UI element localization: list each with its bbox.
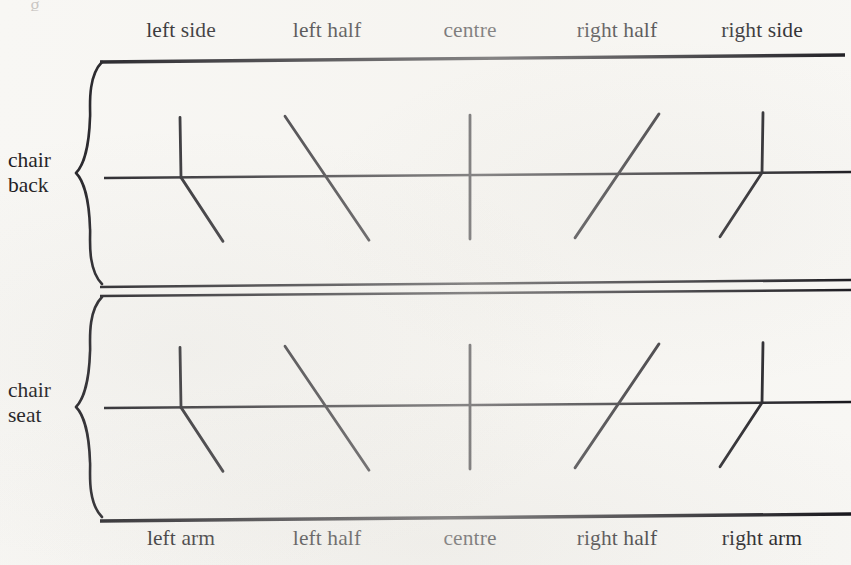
bottom-label-3: right half (577, 528, 657, 550)
mark-backslash-stroke (285, 116, 369, 240)
tick-mark-diagonal-forwardslash (575, 114, 659, 238)
chair-back-axis (104, 172, 851, 178)
row-label-chair-back: chairback (8, 148, 51, 198)
mark-backslash-stroke (285, 346, 369, 470)
braces-group (76, 62, 102, 517)
chair-region-coding-figure: g left sideleft halfcentreright halfrigh… (0, 0, 851, 565)
mark-lower-diagonal-stroke (720, 173, 762, 237)
mark-upper-vertical-stroke (762, 343, 763, 403)
mark-forwardslash-stroke (575, 344, 659, 468)
horizontal-rules-group (100, 55, 851, 521)
mark-upper-vertical-stroke (180, 117, 181, 177)
tick-mark-vertical-up-diagonal-down-right (180, 117, 223, 241)
mark-forwardslash-stroke (575, 114, 659, 238)
tick-mark-vertical-up-diagonal-down-left (720, 343, 763, 467)
tick-mark-diagonal-backslash (285, 346, 369, 470)
row-label-line-2: seat (8, 403, 51, 428)
divider-rule-lower (100, 290, 851, 296)
top-label-1: left half (293, 20, 361, 42)
tick-mark-vertical-up-diagonal-down-left (720, 113, 763, 237)
chair-seat-brace (76, 297, 102, 517)
chair-seat-axis (104, 402, 851, 408)
mark-lower-diagonal-stroke (720, 403, 762, 467)
tick-mark-diagonal-forwardslash (575, 344, 659, 468)
row-label-line-1: chair (8, 148, 51, 173)
mark-lower-diagonal-stroke (181, 177, 223, 241)
row-label-line-2: back (8, 173, 51, 198)
mark-lower-diagonal-stroke (181, 407, 223, 471)
row-label-line-1: chair (8, 378, 51, 403)
bottom-label-0: left arm (147, 528, 215, 550)
bottom-rule (100, 514, 851, 521)
top-label-0: left side (146, 20, 216, 42)
top-label-3: right half (577, 20, 657, 42)
row-label-chair-seat: chairseat (8, 378, 51, 428)
bottom-label-1: left half (293, 528, 361, 550)
mark-upper-vertical-stroke (762, 113, 763, 173)
bottom-label-4: right arm (722, 528, 802, 550)
divider-rule-upper (100, 280, 851, 287)
top-label-2: centre (443, 20, 496, 42)
chair-back-brace (76, 62, 102, 284)
bottom-label-2: centre (443, 528, 496, 550)
cutoff-text-remnant: g (30, 0, 40, 11)
tick-mark-vertical-up-diagonal-down-right (180, 347, 223, 471)
diagram-vector-layer (0, 0, 851, 565)
top-rule (100, 55, 845, 62)
top-label-4: right side (721, 20, 803, 42)
mark-upper-vertical-stroke (180, 347, 181, 407)
tick-mark-diagonal-backslash (285, 116, 369, 240)
